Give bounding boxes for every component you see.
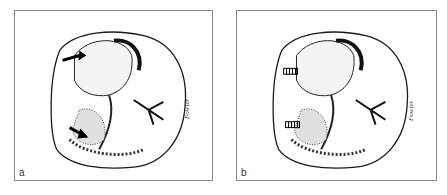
figure-caption-cropped	[14, 188, 439, 195]
figure-panel-a: Fowler a	[14, 10, 213, 181]
tooth-illustration-b	[237, 11, 436, 180]
artist-signature: Fowler	[407, 101, 415, 121]
figure-panel-b: Fowler b	[236, 10, 437, 181]
artist-signature: Fowler	[183, 99, 191, 119]
tooth-illustration-a	[15, 11, 212, 180]
panel-label: a	[19, 167, 25, 178]
panel-label: b	[241, 167, 247, 178]
